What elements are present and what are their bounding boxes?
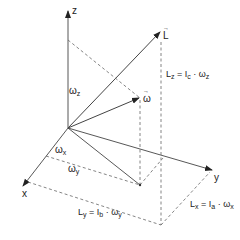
- omega-projection-point: [139, 184, 141, 186]
- Lz-equation: Lz = Ic · ωz: [166, 70, 209, 80]
- Lx-rhs: · ω: [215, 199, 230, 209]
- omega-y-sub: y: [76, 168, 80, 175]
- Lz-eq: = I: [175, 69, 188, 79]
- Ly-rhs-sub: y: [118, 211, 122, 218]
- dashed-proj-to-y: [140, 158, 163, 185]
- omega-vector: [68, 98, 139, 128]
- Lx-eq: = I: [199, 199, 212, 209]
- L-vector: [68, 32, 160, 128]
- dashed-x-to-Lbase: [28, 182, 161, 225]
- x-axis-label: x: [22, 189, 27, 199]
- omega-x-label: ωx: [55, 145, 66, 156]
- dashed-omegax-to-proj: [46, 156, 140, 185]
- omega-x-sub: x: [63, 149, 67, 156]
- y-axis-label: y: [214, 173, 219, 183]
- omega-z-sub: z: [77, 90, 81, 97]
- omega-z-label: ωz: [69, 86, 80, 97]
- omega-projection: [68, 128, 140, 185]
- Lz-rhs: · ω: [191, 69, 206, 79]
- Ly-rhs: · ω: [103, 207, 118, 217]
- Lx-rhs-sub: x: [230, 203, 234, 210]
- z-axis-label: z: [72, 6, 77, 16]
- omega-label-text: ω: [143, 94, 151, 104]
- x-axis: [23, 128, 68, 186]
- omega-x-symbol: ω: [55, 144, 63, 155]
- Lz-rhs-sub: z: [206, 73, 210, 80]
- omega-y-label: ωy: [68, 164, 79, 175]
- Lx-equation: Lx = Ia · ωx: [190, 200, 234, 210]
- omega-z-symbol: ω: [69, 85, 77, 96]
- L-label-text: L: [163, 31, 169, 41]
- omega-vector-label: ω: [143, 94, 151, 104]
- omega-y-symbol: ω: [68, 163, 76, 174]
- Ly-equation: Ly = Ib · ωy: [78, 208, 122, 218]
- L-vector-label: L: [163, 31, 169, 41]
- Ly-eq: = I: [87, 207, 100, 217]
